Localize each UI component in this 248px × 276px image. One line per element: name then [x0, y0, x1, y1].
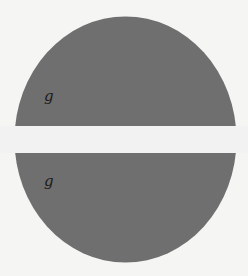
split-circle-diagram: g g — [0, 0, 248, 276]
diagram-canvas: g g — [0, 0, 248, 276]
upper-segment — [0, 0, 248, 126]
lower-g-label: g — [44, 172, 54, 190]
upper-g-label: g — [44, 87, 54, 105]
lower-segment — [0, 153, 248, 276]
separation-band — [0, 126, 248, 153]
